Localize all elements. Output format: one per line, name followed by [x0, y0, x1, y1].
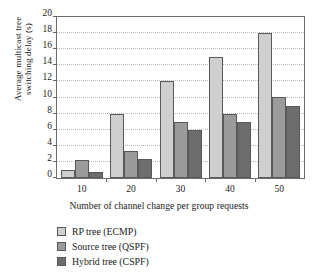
y-axis-tick-label: 14 — [43, 56, 53, 66]
bar — [188, 130, 202, 178]
y-axis-tick-label: 0 — [47, 169, 52, 179]
legend-swatch — [57, 227, 66, 236]
bar-group — [160, 17, 202, 178]
legend-label: RP tree (ECMP) — [72, 226, 136, 237]
y-axis-tick-label: 2 — [47, 153, 52, 163]
x-axis-tick — [205, 178, 206, 182]
legend-swatch — [57, 257, 66, 266]
bar — [272, 97, 286, 178]
y-axis-tick — [53, 161, 57, 162]
bar — [174, 122, 188, 178]
bar — [237, 122, 251, 178]
legend-label: Hybrid tree (CSPF) — [72, 256, 149, 267]
bar — [209, 57, 223, 178]
y-axis-tick — [53, 145, 57, 146]
bar — [258, 33, 272, 178]
y-axis-tick — [53, 177, 57, 178]
y-axis-tick-label: 4 — [47, 137, 52, 147]
x-axis-title: Number of channel change per group reque… — [0, 200, 318, 211]
bar — [138, 159, 152, 178]
plot-area: 024681012141618201020304050 — [56, 16, 305, 179]
y-axis-tick — [53, 64, 57, 65]
bar-group — [61, 17, 103, 178]
bar — [75, 160, 89, 178]
legend-item: Hybrid tree (CSPF) — [57, 254, 149, 269]
x-axis-tick-label: 50 — [275, 184, 285, 194]
x-axis-tick — [255, 178, 256, 182]
x-axis-tick-label: 40 — [225, 184, 235, 194]
plot-inner: 024681012141618201020304050 — [57, 17, 304, 178]
bar — [286, 106, 300, 178]
legend-item: Source tree (QSPF) — [57, 239, 149, 254]
y-axis-tick-label: 8 — [47, 104, 52, 114]
bar-chart-figure: Average multicast tree switching delay (… — [0, 0, 318, 278]
bar — [110, 114, 124, 178]
y-axis-tick — [53, 97, 57, 98]
x-axis-tick-label: 20 — [126, 184, 136, 194]
bar — [160, 81, 174, 178]
y-axis-tick — [53, 48, 57, 49]
y-axis-tick-label: 20 — [43, 8, 53, 18]
y-axis-title: Average multicast tree switching delay (… — [8, 0, 38, 144]
y-axis-tick-label: 18 — [43, 24, 53, 34]
y-axis-title-line-2: switching delay (s) — [23, 23, 33, 95]
y-axis-tick — [53, 32, 57, 33]
x-axis-tick — [156, 178, 157, 182]
bar-group — [110, 17, 152, 178]
x-axis-tick-label: 10 — [77, 184, 87, 194]
bar — [61, 170, 75, 178]
y-axis-tick-label: 16 — [43, 40, 53, 50]
y-axis-tick-label: 12 — [43, 72, 53, 82]
y-axis-title-line-1: Average multicast tree — [13, 17, 23, 102]
y-axis-tick — [53, 80, 57, 81]
x-axis-tick-label: 30 — [176, 184, 186, 194]
y-axis-tick — [53, 129, 57, 130]
y-axis-tick-label: 10 — [43, 88, 53, 98]
bar-group — [258, 17, 300, 178]
legend-swatch — [57, 242, 66, 251]
x-axis-tick — [106, 178, 107, 182]
y-axis-tick-label: 6 — [47, 121, 52, 131]
legend-label: Source tree (QSPF) — [72, 241, 149, 252]
bar-group — [209, 17, 251, 178]
y-axis-tick — [53, 16, 57, 17]
bar — [124, 151, 138, 178]
bar — [89, 172, 103, 178]
bar — [223, 114, 237, 178]
y-axis-tick — [53, 113, 57, 114]
chart-legend: RP tree (ECMP)Source tree (QSPF)Hybrid t… — [57, 224, 149, 269]
legend-item: RP tree (ECMP) — [57, 224, 149, 239]
